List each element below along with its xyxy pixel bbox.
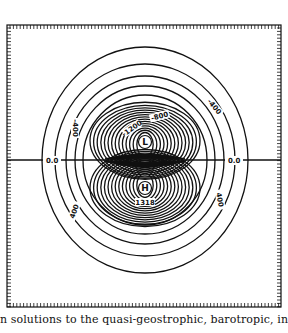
zero-contour-label: 0.0 <box>46 157 59 165</box>
zero-contour-label: 0.0 <box>228 157 241 165</box>
contour-value-label: -800 <box>150 110 169 122</box>
contour-figure: 0.00.0LH-400-1200-800-4004004001318 <box>0 0 288 312</box>
figure-caption: n solutions to the quasi-geostrophic, ba… <box>0 313 288 326</box>
contour-value-label: 1318 <box>135 199 155 207</box>
high-center-label: H <box>141 183 149 193</box>
contour-value-label: -400 <box>71 119 79 137</box>
low-center-label: L <box>142 137 148 147</box>
contour-value-label: 400 <box>68 203 81 220</box>
contour-value-label: 400 <box>214 192 224 208</box>
